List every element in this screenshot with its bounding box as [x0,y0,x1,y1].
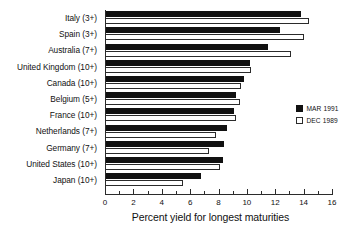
axis-tick-label: 0 [103,198,107,207]
bar-mar-1991 [105,11,301,17]
legend-label-mar-1991: MAR 1991 [307,105,339,112]
bar-mar-1991 [105,173,201,179]
category-label: United States (10+) [0,156,101,172]
category-label: Japan (10+) [0,172,101,188]
category-label: Italy (3+) [0,10,101,26]
axis-tick-label: 4 [160,198,164,207]
bar-mar-1991 [105,27,280,33]
bar-dec-1989 [105,164,220,170]
x-axis-title: Percent yield for longest maturities [0,211,355,223]
bar-dec-1989 [105,67,251,73]
bar-mar-1991 [105,125,227,131]
bar-chart: Italy (3+)Spain (3+)Australia (7+)United… [0,0,355,233]
bar-dec-1989 [105,51,291,57]
bar-group [105,140,332,156]
bar-dec-1989 [105,99,240,105]
category-label: Belgium (5+) [0,91,101,107]
axis-tick-label: 6 [188,198,192,207]
bar-dec-1989 [105,180,183,186]
axis-tick-minor [176,191,177,195]
bar-dec-1989 [105,34,304,40]
legend-label-dec-1989: DEC 1989 [307,117,338,124]
bar-mar-1991 [105,141,224,147]
bar-mar-1991 [105,108,234,114]
category-axis-labels: Italy (3+)Spain (3+)Australia (7+)United… [0,10,101,188]
axis-tick-major [332,189,333,195]
legend-swatch-hollow-icon [296,117,303,124]
bar-group [105,42,332,58]
category-label: Australia (7+) [0,42,101,58]
bar-dec-1989 [105,83,241,89]
chart-legend: MAR 1991 DEC 1989 [296,103,338,128]
category-label: Germany (7+) [0,140,101,156]
axis-tick-minor [233,191,234,195]
bar-mar-1991 [105,44,268,50]
axis-tick-major [133,189,134,195]
bar-group [105,156,332,172]
category-label: Netherlands (7+) [0,123,101,139]
bar-mar-1991 [105,60,250,66]
axis-tick-major [304,189,305,195]
x-axis-title-text: Percent yield for longest maturities [66,211,289,223]
category-label: France (10+) [0,107,101,123]
axis-tick-minor [318,191,319,195]
bar-dec-1989 [105,115,236,121]
bar-dec-1989 [105,148,209,154]
bar-dec-1989 [105,132,216,138]
plot-area [105,10,332,188]
bar-mar-1991 [105,92,236,98]
value-axis-origin-line [105,10,106,194]
axis-tick-major [162,189,163,195]
axis-tick-major [275,189,276,195]
legend-swatch-filled-icon [296,105,303,112]
axis-tick-label: 16 [328,198,337,207]
category-label: Spain (3+) [0,26,101,42]
axis-tick-minor [148,191,149,195]
bar-group [105,59,332,75]
axis-tick-label: 14 [299,198,308,207]
axis-tick-label: 8 [216,198,220,207]
bar-dec-1989 [105,18,309,24]
axis-tick-label: 2 [131,198,135,207]
axis-tick-minor [204,191,205,195]
category-label: Canada (10+) [0,75,101,91]
axis-tick-major [219,189,220,195]
axis-tick-label: 12 [271,198,280,207]
axis-tick-minor [261,191,262,195]
axis-tick-major [105,189,106,195]
bar-group [105,26,332,42]
bar-mar-1991 [105,76,244,82]
legend-item-mar-1991: MAR 1991 [296,103,338,113]
bar-group [105,10,332,26]
bar-mar-1991 [105,157,223,163]
axis-tick-label: 10 [242,198,251,207]
axis-tick-major [247,189,248,195]
axis-tick-minor [119,191,120,195]
legend-item-dec-1989: DEC 1989 [296,116,338,126]
axis-tick-major [190,189,191,195]
bar-group [105,172,332,188]
bar-group [105,75,332,91]
axis-tick-minor [289,191,290,195]
category-label: United Kingdom (10+) [0,59,101,75]
